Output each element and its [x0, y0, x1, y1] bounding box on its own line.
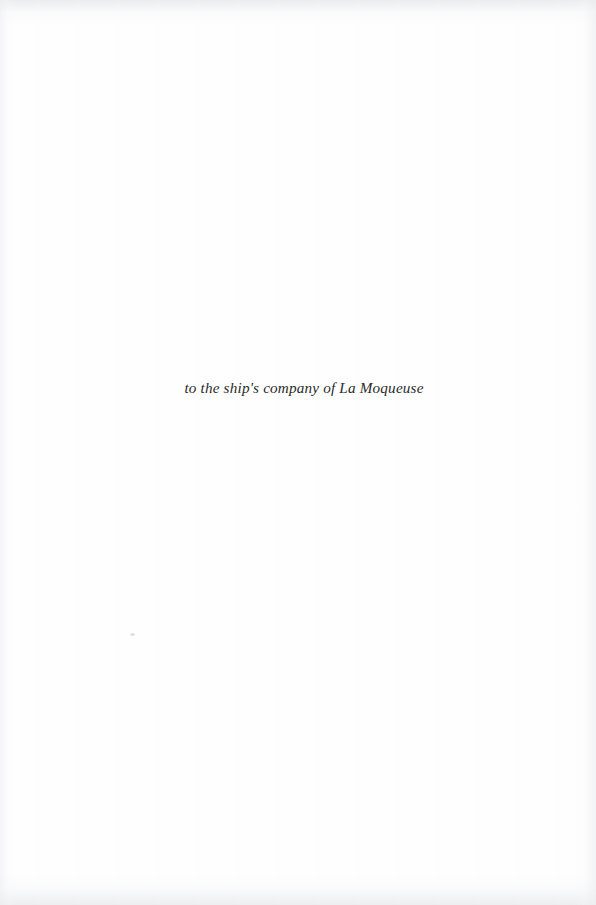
scan-dust-speck	[130, 633, 135, 636]
dedication-page: to the ship's company of La Moqueuse	[0, 0, 596, 905]
scan-edge-shading-left	[0, 0, 16, 905]
dedication-text: to the ship's company of La Moqueuse	[0, 378, 596, 397]
scan-edge-shading-right	[574, 0, 596, 905]
scan-banding-overlay	[0, 0, 596, 905]
scan-edge-shading-top	[0, 0, 596, 26]
scan-edge-shading-bottom	[0, 871, 596, 905]
